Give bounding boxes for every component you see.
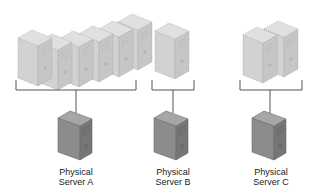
label-line: Physical xyxy=(41,167,111,177)
label-line: Server C xyxy=(236,177,306,187)
virtualization-diagram: Physical Server A Physical Server B Phys… xyxy=(0,0,315,194)
vm-icon xyxy=(243,27,277,83)
physical-server-b-icon xyxy=(154,111,188,160)
physical-server-a-label: Physical Server A xyxy=(41,167,111,187)
physical-server-c-icon xyxy=(252,111,286,160)
label-line: Server A xyxy=(41,177,111,187)
bracket-c xyxy=(240,80,302,113)
vm-icon xyxy=(155,23,189,79)
physical-server-b-label: Physical Server B xyxy=(138,167,208,187)
bracket-b xyxy=(152,80,194,113)
physical-server-a-icon xyxy=(58,111,92,160)
physical-server-c-label: Physical Server C xyxy=(236,167,306,187)
label-line: Physical xyxy=(138,167,208,177)
vm-group-c xyxy=(243,21,298,83)
label-line: Physical xyxy=(236,167,306,177)
vm-group-b xyxy=(155,23,189,79)
vm-group-a xyxy=(18,14,152,90)
label-line: Server B xyxy=(138,177,208,187)
vm-icon xyxy=(18,30,52,86)
